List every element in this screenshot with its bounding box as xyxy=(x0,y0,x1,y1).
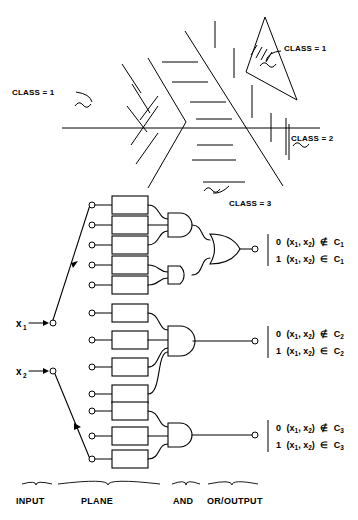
hatch-horizontal-middle xyxy=(162,62,245,182)
output-label-c2: 0 (x1, x2) ∉ C2 1 (x1, x2) ∈ C2 xyxy=(268,326,344,358)
node-c1-r2[interactable] xyxy=(89,222,95,228)
leader-class-3 xyxy=(204,186,229,193)
label-class-1-left: CLASS = 1 xyxy=(12,88,55,97)
node-c3-r1[interactable] xyxy=(89,408,95,414)
brace-plane xyxy=(58,481,160,485)
plane-box-c1-3[interactable] xyxy=(112,236,148,254)
output-label-c1: 0 (x1, x2) ∉ C1 1 (x1, x2) ∈ C1 xyxy=(268,234,344,266)
plane-box-c2-4[interactable] xyxy=(112,385,148,403)
plane-box-c2-1[interactable] xyxy=(112,304,148,322)
tilde-class-1-left xyxy=(75,103,91,108)
out-c2-value-0: 0 xyxy=(276,329,281,339)
brace-input xyxy=(22,482,52,485)
bus-x2 xyxy=(55,374,90,459)
output-node-c2[interactable] xyxy=(252,338,258,344)
plane-box-c1-1[interactable] xyxy=(112,196,148,214)
leader-class-1-left xyxy=(75,92,92,107)
and-gate-c2[interactable] xyxy=(168,326,195,356)
node-c2-r4[interactable] xyxy=(89,391,95,397)
output-label-c3: 0 (x1, x2) ∉ C3 1 (x1, x2) ∈ C3 xyxy=(268,420,344,452)
svg-text:1 (x1, x2) ∈: 1 (x1, x2) ∈ C3 xyxy=(276,440,344,451)
plane-box-c2-3[interactable] xyxy=(112,358,148,376)
node-c2-r1[interactable] xyxy=(89,310,95,316)
triangle-region xyxy=(246,17,297,100)
stage-label-input: INPUT xyxy=(16,496,45,506)
hatch-diagonal-left xyxy=(122,64,158,164)
bus-x1 xyxy=(53,205,90,320)
out-c3-rel-1: ∈ xyxy=(320,440,328,450)
out-c1-value-0: 0 xyxy=(276,237,281,247)
svg-text:1 (x1, x2) ∈: 1 (x1, x2) ∈ C2 xyxy=(276,346,344,357)
group-c3 xyxy=(89,402,258,468)
plane-box-c3-3b[interactable] xyxy=(112,450,148,468)
svg-text:0 (x1, x2) ∉: 0 (x1, x2) ∉ C1 xyxy=(276,237,344,248)
leader-class-1-triangle xyxy=(260,51,281,67)
feature-space-region: CLASS = 1 CLASS = 1 CLASS = 2 CLASS = 3 xyxy=(12,17,334,208)
node-c2-r3[interactable] xyxy=(89,364,95,370)
group-c1 xyxy=(89,196,258,294)
plane-box-c1-2[interactable] xyxy=(112,216,148,234)
node-c1-r4[interactable] xyxy=(89,262,95,268)
node-c1-r3[interactable] xyxy=(89,242,95,248)
out-c3-setsub-0: 3 xyxy=(340,427,344,434)
out-c3-value-0: 0 xyxy=(276,423,281,433)
out-c1-value-1: 1 xyxy=(276,254,281,264)
input-x1-subscript: 1 xyxy=(23,324,27,331)
node-c2-r2[interactable] xyxy=(89,337,95,343)
tilde-class-3 xyxy=(204,188,220,193)
out-c1-rel-1: ∈ xyxy=(320,254,328,264)
stage-label-output: OR/OUTPUT xyxy=(207,496,263,506)
out-c3-rel-0: ∉ xyxy=(320,423,328,433)
brace-and xyxy=(172,482,200,485)
and-gate-c1-b[interactable] xyxy=(168,266,184,284)
input-x1[interactable]: x 1 xyxy=(16,318,56,331)
figure-canvas: CLASS = 1 CLASS = 1 CLASS = 2 CLASS = 3 … xyxy=(0,0,358,520)
classifier-network: x 1 x 2 xyxy=(16,196,344,468)
input-x2-label: x xyxy=(16,366,22,377)
tilde-class-2 xyxy=(293,143,309,148)
plane-box-c3-3[interactable] xyxy=(112,427,148,445)
output-node-c3[interactable] xyxy=(252,432,258,438)
out-c2-setsub-1: 2 xyxy=(340,350,344,357)
label-class-2: CLASS = 2 xyxy=(291,134,334,143)
boundary-chevron xyxy=(148,58,186,188)
out-c2-value-1: 1 xyxy=(276,346,281,356)
stage-label-plane: PLANE xyxy=(81,496,113,506)
out-c2-setsub-0: 2 xyxy=(340,333,344,340)
svg-text:0 (x1, x2) ∉: 0 (x1, x2) ∉ C3 xyxy=(276,423,344,434)
arrow-x2-icon xyxy=(43,368,49,374)
node-x1[interactable] xyxy=(50,320,56,326)
node-x2[interactable] xyxy=(50,368,56,374)
input-x2[interactable]: x 2 xyxy=(16,366,56,379)
input-x1-label: x xyxy=(16,318,22,329)
plane-box-c1-5[interactable] xyxy=(112,276,148,294)
label-class-3: CLASS = 3 xyxy=(229,199,272,208)
label-class-1-triangle: CLASS = 1 xyxy=(284,44,327,53)
plane-box-c2-2[interactable] xyxy=(112,331,148,349)
and-gate-c3[interactable] xyxy=(168,423,192,447)
input-x2-subscript: 2 xyxy=(23,372,27,379)
node-c3-r2[interactable] xyxy=(89,433,95,439)
tilde-class-1-triangle xyxy=(260,63,276,68)
out-c2-rel-1: ∈ xyxy=(320,346,328,356)
arrow-x1-icon xyxy=(43,320,49,326)
svg-text:0 (x1, x2) ∉: 0 (x1, x2) ∉ C2 xyxy=(276,329,344,340)
brace-output xyxy=(208,482,258,485)
and-gate-c1-a[interactable] xyxy=(168,213,192,237)
or-gate-c1[interactable] xyxy=(210,234,240,264)
out-c3-value-1: 1 xyxy=(276,440,281,450)
out-c1-setsub-0: 1 xyxy=(340,241,344,248)
out-c1-rel-0: ∉ xyxy=(320,237,328,247)
out-c3-setsub-1: 3 xyxy=(340,444,344,451)
node-c1-r5[interactable] xyxy=(89,282,95,288)
stage-label-and: AND xyxy=(173,496,194,506)
stage-axis: INPUT PLANE AND OR/OUTPUT xyxy=(16,481,263,506)
out-c1-setsub-1: 1 xyxy=(340,258,344,265)
out-c2-rel-0: ∉ xyxy=(320,329,328,339)
plane-box-c1-4[interactable] xyxy=(112,256,148,274)
plane-box-c3-1[interactable] xyxy=(112,402,148,420)
output-node-c1[interactable] xyxy=(252,246,258,252)
node-c1-r1[interactable] xyxy=(89,202,95,208)
svg-text:1 (x1, x2) ∈: 1 (x1, x2) ∈ C1 xyxy=(276,254,344,265)
node-c3-r3[interactable] xyxy=(89,456,95,462)
